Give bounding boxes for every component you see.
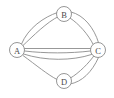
node-b: B	[57, 7, 72, 22]
edge-a-c-middle	[25, 51, 91, 53]
edge-a-b-outer	[22, 13, 58, 45]
node-d: D	[57, 74, 72, 89]
node-c: C	[91, 43, 106, 58]
edge-b-c-inner	[70, 18, 94, 45]
node-label-d: D	[61, 77, 67, 87]
node-layer: ABCD	[10, 7, 106, 89]
graph-canvas: ABCD	[0, 0, 114, 98]
node-label-b: B	[61, 10, 67, 20]
node-label-c: C	[95, 46, 101, 56]
graph-diagram: ABCD	[0, 0, 114, 98]
edge-b-c-outer	[71, 12, 99, 43]
edge-layer	[22, 12, 99, 84]
edge-a-c-bottom	[24, 54, 92, 59]
node-a: A	[10, 43, 25, 58]
edge-d-c-outer	[70, 58, 99, 85]
node-label-a: A	[14, 46, 21, 56]
